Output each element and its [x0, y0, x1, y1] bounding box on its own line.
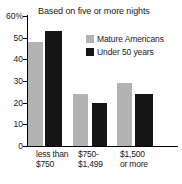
legend-item-mature-americans: Mature Americans	[86, 33, 164, 45]
legend-swatch-icon-black	[86, 48, 94, 56]
x-axis-category-line1: less than	[36, 149, 68, 159]
y-axis-tick	[23, 146, 28, 147]
x-axis-labels: less than$750$750-$1,499$1,500or more	[28, 149, 182, 179]
x-axis-category-line2: $1,499	[78, 159, 103, 169]
bar-chart: Based on five or more nights 01020304050…	[0, 0, 182, 184]
legend-label-mature-americans: Mature Americans	[97, 34, 164, 44]
bar-less-than-750-series-2	[45, 31, 62, 146]
y-axis-tick-label: 40	[0, 55, 23, 63]
bar--750-1-499-series-2	[92, 103, 107, 146]
x-axis-category-label: less than$750	[36, 149, 68, 169]
bar--1-500-or-more-series-2	[135, 94, 153, 146]
legend-swatch-icon-gray	[86, 35, 94, 43]
y-axis-tick-label: 10	[0, 120, 23, 128]
y-axis-tick-label: 30	[0, 77, 23, 85]
legend-label-under-50-years: Under 50 years	[97, 47, 154, 57]
x-axis-category-line2: $750	[36, 159, 68, 169]
x-axis-category-line2: or more	[120, 159, 148, 169]
bar--750-1-499-series-1	[73, 94, 88, 146]
y-axis-tick-label: 60%	[0, 12, 23, 20]
y-axis-labels: 0102030405060%	[0, 0, 23, 184]
bar-less-than-750-series-1	[28, 42, 43, 146]
x-axis-line	[27, 146, 178, 147]
chart-title: Based on five or more nights	[38, 6, 178, 16]
y-axis-tick-label: 50	[0, 34, 23, 42]
x-axis-category-label: $1,500or more	[120, 149, 148, 169]
y-axis-tick-label: 0	[0, 142, 23, 150]
x-axis-category-line1: $1,500	[120, 149, 148, 159]
legend-item-under-50-years: Under 50 years	[86, 46, 164, 58]
x-axis-category-label: $750-$1,499	[78, 149, 103, 169]
bar--1-500-or-more-series-1	[117, 83, 132, 146]
x-axis-category-line1: $750-	[78, 149, 103, 159]
y-axis-tick-label: 20	[0, 99, 23, 107]
legend: Mature Americans Under 50 years	[86, 33, 164, 59]
